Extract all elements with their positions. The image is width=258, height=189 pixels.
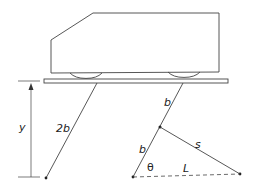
right-link bbox=[133, 83, 183, 177]
label-L: L bbox=[183, 162, 189, 175]
left-pivot bbox=[45, 177, 48, 180]
label-2b: 2b bbox=[56, 122, 70, 135]
left-link bbox=[46, 83, 97, 178]
label-theta: θ bbox=[147, 161, 154, 174]
lift-platform bbox=[44, 79, 228, 83]
linkage-diagram: y 2b b b s L θ bbox=[0, 0, 258, 189]
label-b-lower: b bbox=[139, 143, 146, 156]
arrow-up-icon bbox=[29, 83, 34, 90]
label-s: s bbox=[195, 138, 201, 151]
label-b-upper: b bbox=[164, 96, 171, 109]
vehicle-body bbox=[51, 13, 219, 73]
front-wheel bbox=[70, 73, 102, 78]
label-y: y bbox=[18, 121, 26, 134]
rear-wheel bbox=[168, 72, 200, 77]
